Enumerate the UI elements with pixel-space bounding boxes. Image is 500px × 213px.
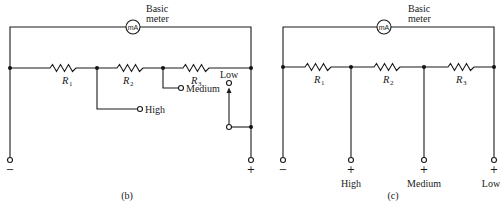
svg-text:2: 2 <box>390 79 394 87</box>
c-caption: (c) <box>387 190 398 202</box>
b-selector-switch[interactable] <box>227 88 232 130</box>
svg-text:2: 2 <box>130 80 134 88</box>
b-high-label: High <box>145 104 165 115</box>
b-negative-terminal[interactable] <box>8 158 13 163</box>
b-positive-terminal[interactable] <box>249 158 254 163</box>
c-low-sign: + <box>490 164 498 175</box>
svg-text:R: R <box>382 74 390 85</box>
c-medium-sign: + <box>420 164 428 175</box>
b-top-wire-right <box>140 27 251 68</box>
b-medium-label: Medium <box>186 83 220 94</box>
c-negative-sign: − <box>279 164 287 175</box>
svg-text:R: R <box>313 74 321 85</box>
c-medium-terminal[interactable] <box>422 158 427 163</box>
c-meter-label-2: meter <box>408 13 431 24</box>
c-high-terminal[interactable] <box>349 158 354 163</box>
b-switch-pivot <box>227 125 232 130</box>
svg-text:R: R <box>61 75 69 86</box>
c-r3-label: R 3 <box>455 74 467 87</box>
c-negative-terminal[interactable] <box>281 158 286 163</box>
diagram-c: mA Basic meter R 1 R 2 R 3 − + Hig <box>279 3 500 202</box>
c-shunt-chain <box>283 64 494 71</box>
b-shunt-chain <box>10 65 251 72</box>
b-meter-label-2: meter <box>146 13 169 24</box>
b-medium-terminal[interactable] <box>179 86 184 91</box>
b-low-terminal[interactable] <box>227 81 232 86</box>
svg-text:1: 1 <box>321 79 325 87</box>
c-top-wire-right <box>391 27 494 67</box>
c-meter: mA Basic meter <box>377 3 431 34</box>
c-r2-label: R 2 <box>382 74 394 87</box>
diagram-b: mA Basic meter R 1 R 2 R 3 High Medium <box>6 3 255 202</box>
b-junction-switch <box>249 125 253 129</box>
b-top-wire-left <box>10 27 126 68</box>
svg-text:1: 1 <box>69 80 73 88</box>
b-high-wire <box>97 68 137 109</box>
b-caption: (b) <box>121 190 133 202</box>
svg-text:R: R <box>455 74 463 85</box>
c-high-label: High <box>341 178 361 189</box>
b-r1-label: R 1 <box>61 75 73 88</box>
c-r1-label: R 1 <box>313 74 325 87</box>
svg-text:R: R <box>122 75 130 86</box>
b-medium-wire <box>163 68 178 88</box>
c-low-terminal[interactable] <box>492 158 497 163</box>
svg-text:3: 3 <box>463 79 467 87</box>
c-meter-symbol: mA <box>379 24 390 31</box>
b-r2-label: R 2 <box>122 75 134 88</box>
b-negative-sign: − <box>6 164 14 175</box>
b-switch-arrow-icon <box>227 88 232 94</box>
b-positive-sign: + <box>247 164 255 175</box>
b-low-label: Low <box>220 69 239 80</box>
c-high-sign: + <box>347 164 355 175</box>
c-medium-label: Medium <box>407 178 441 189</box>
c-top-wire-left <box>283 27 377 67</box>
b-high-terminal[interactable] <box>138 107 143 112</box>
c-low-label: Low <box>482 178 500 189</box>
circuit-figure: mA Basic meter R 1 R 2 R 3 High Medium <box>0 0 500 213</box>
b-meter: mA Basic meter <box>126 3 169 34</box>
b-meter-symbol: mA <box>128 24 139 31</box>
